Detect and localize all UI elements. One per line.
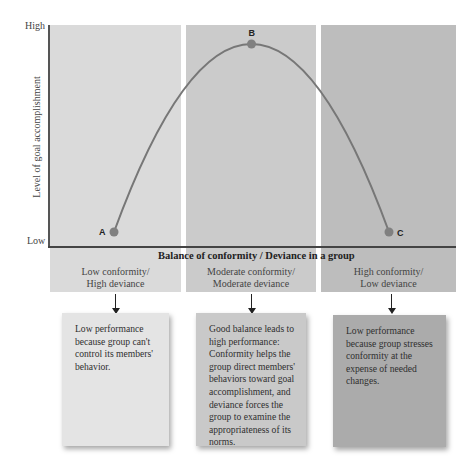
down-arrow-icon	[391, 294, 392, 310]
down-arrow-icon	[115, 294, 116, 310]
point-c	[385, 228, 394, 237]
note-low-conformity: Low performance because group can't cont…	[62, 313, 169, 446]
note-moderate-conformity: Good balance leads to high performance: …	[196, 313, 306, 446]
performance-curve	[114, 44, 389, 232]
point-a	[110, 228, 119, 237]
point-label-a: A	[99, 227, 106, 237]
point-b	[247, 40, 256, 49]
conformity-deviance-diagram: High Low Level of goal accomplishment Ba…	[0, 0, 476, 476]
note-high-conformity: Low performance because group stresses c…	[333, 315, 446, 447]
point-label-b: B	[249, 28, 256, 38]
point-label-c: C	[397, 228, 404, 238]
down-arrow-icon	[251, 294, 252, 310]
